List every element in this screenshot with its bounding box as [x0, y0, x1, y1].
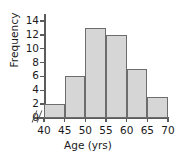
- y-tick-label: 10: [19, 42, 39, 55]
- y-tick-label: 6: [19, 69, 39, 82]
- histogram-bar: [127, 69, 148, 118]
- y-tick-label: 12: [19, 28, 39, 41]
- y-tick-mark: [40, 90, 45, 92]
- histogram-bar: [106, 35, 127, 118]
- y-tick-mark: [40, 62, 45, 64]
- y-tick-label: 14: [19, 14, 39, 27]
- x-tick-label: 70: [156, 124, 176, 137]
- y-tick-mark: [40, 48, 45, 50]
- y-tick-mark: [40, 34, 45, 36]
- histogram-figure: Frequency 02468101214 40455055606570 Age…: [0, 0, 176, 158]
- histogram-bar: [85, 28, 106, 118]
- axis-break-icon: [30, 110, 46, 124]
- x-axis-title: Age (yrs): [0, 139, 176, 152]
- y-tick-mark: [40, 20, 45, 22]
- y-tick-label: 2: [19, 97, 39, 110]
- histogram-bar: [65, 76, 86, 118]
- y-tick-label: 8: [19, 56, 39, 69]
- y-tick-label: 4: [19, 83, 39, 96]
- y-tick-mark: [40, 76, 45, 78]
- plot-area: 02468101214 40455055606570: [44, 14, 168, 118]
- histogram-bar: [44, 104, 65, 118]
- histogram-bar: [147, 97, 168, 118]
